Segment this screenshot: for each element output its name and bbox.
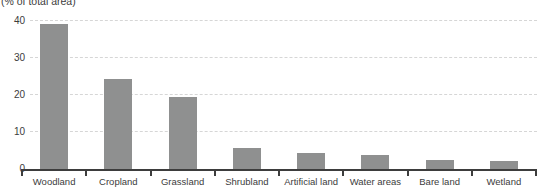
bar-artificial-land [297, 153, 325, 169]
x-axis-tick [214, 169, 216, 176]
bar-wetland [490, 161, 518, 169]
x-axis-tick [407, 169, 409, 176]
gridline-30 [30, 57, 537, 58]
bar-water-areas [361, 155, 389, 169]
bar-bare-land [426, 160, 454, 169]
x-axis-tick [21, 169, 23, 176]
x-tick-label-grassland: Grassland [151, 176, 215, 187]
bar-woodland [40, 24, 68, 169]
x-tick-label-wetland: Wetland [472, 176, 536, 187]
bar-grassland [169, 97, 197, 169]
y-tick-label-40: 40 [0, 15, 25, 27]
x-tick-label-water-areas: Water areas [343, 176, 407, 187]
bar-cropland [104, 79, 132, 169]
gridline-40 [30, 20, 537, 21]
bar-chart: (% of total area) 010203040WoodlandCropl… [0, 0, 541, 192]
x-tick-label-shrubland: Shrubland [215, 176, 279, 187]
y-tick-label-20: 20 [0, 89, 25, 101]
x-axis-tick [342, 169, 344, 176]
y-tick-label-10: 10 [0, 126, 25, 138]
x-tick-label-cropland: Cropland [86, 176, 150, 187]
x-tick-label-bare-land: Bare land [408, 176, 472, 187]
x-axis-tick [535, 169, 537, 176]
x-axis-tick [278, 169, 280, 176]
x-axis-tick [85, 169, 87, 176]
y-tick-label-30: 30 [0, 52, 25, 64]
plot-area: 010203040WoodlandCroplandGrasslandShrubl… [0, 0, 541, 192]
x-axis-tick [471, 169, 473, 176]
x-tick-label-woodland: Woodland [22, 176, 86, 187]
bar-shrubland [233, 148, 261, 169]
x-axis-tick [150, 169, 152, 176]
x-tick-label-artificial-land: Artificial land [279, 176, 343, 187]
